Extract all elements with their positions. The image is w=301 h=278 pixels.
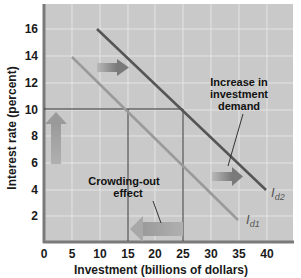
svg-text:30: 30 [204,247,218,261]
svg-text:5: 5 [69,247,76,261]
svg-text:10: 10 [25,103,39,117]
svg-text:0: 0 [41,247,48,261]
svg-text:effect: effect [113,187,143,199]
svg-text:12: 12 [25,76,39,90]
svg-text:demand: demand [218,100,260,112]
svg-text:investment: investment [210,88,268,100]
svg-text:4: 4 [31,183,38,197]
svg-text:10: 10 [93,247,107,261]
svg-text:Crowding-out: Crowding-out [88,175,160,187]
y-tick-labels: 2 4 6 8 10 12 14 16 [25,22,39,223]
svg-text:Increase in: Increase in [210,76,268,88]
svg-text:8: 8 [31,129,38,143]
plot-area [44,4,293,242]
svg-text:6: 6 [31,156,38,170]
svg-text:25: 25 [176,247,190,261]
x-tick-labels: 0 5 10 15 20 25 30 35 40 [41,247,274,261]
svg-text:15: 15 [121,247,135,261]
svg-text:16: 16 [25,22,39,36]
svg-text:40: 40 [260,247,274,261]
x-axis-label: Investment (billions of dollars) [74,263,248,277]
svg-text:2: 2 [31,209,38,223]
investment-demand-chart: Id1 Id2 Increase in investment demand Cr… [0,0,301,278]
svg-text:35: 35 [232,247,246,261]
svg-text:20: 20 [148,247,162,261]
svg-text:14: 14 [25,49,39,63]
y-axis-label: Interest rate (percent) [5,66,19,189]
